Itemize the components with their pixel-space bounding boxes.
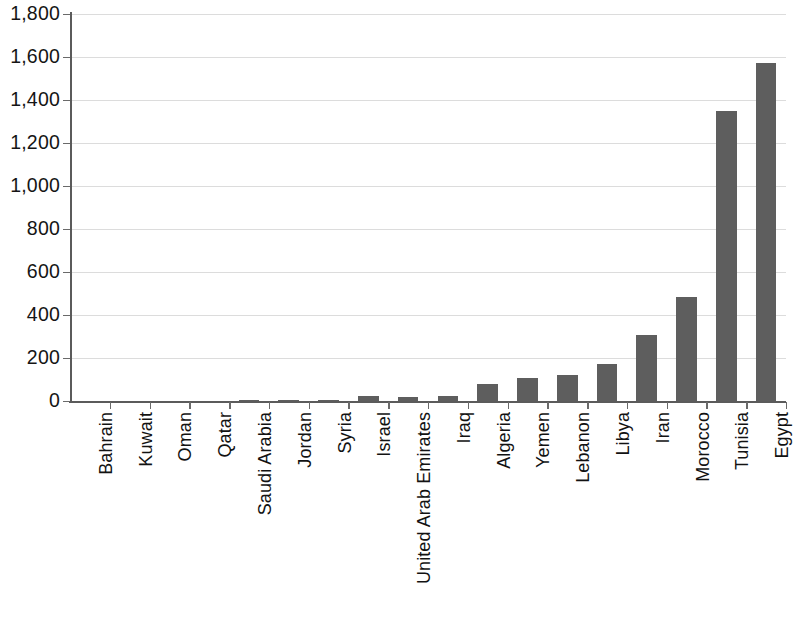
y-tick-mark	[63, 229, 70, 230]
x-tick-mark	[746, 402, 747, 409]
bar[interactable]	[597, 364, 618, 401]
bar[interactable]	[676, 297, 697, 401]
bars-layer	[70, 14, 786, 401]
x-tick-label: Iran	[654, 412, 672, 443]
y-tick-label: 200	[0, 348, 60, 368]
x-tick-label: Tunisia	[733, 412, 751, 470]
x-tick-label: United Arab Emirates	[415, 412, 433, 584]
y-axis-tick-labels: 02004006008001,0001,2001,4001,6001,800	[0, 0, 60, 621]
bar[interactable]	[477, 384, 498, 401]
y-tick-mark	[63, 14, 70, 15]
bar[interactable]	[756, 63, 777, 401]
y-tick-label: 1,400	[0, 90, 60, 110]
y-tick-mark	[63, 358, 70, 359]
x-tick-mark	[547, 402, 548, 409]
x-tick-label: Algeria	[495, 412, 513, 469]
x-tick-mark	[428, 402, 429, 409]
x-tick-mark	[348, 402, 349, 409]
y-tick-mark	[63, 272, 70, 273]
bar[interactable]	[557, 375, 578, 401]
x-tick-mark	[706, 402, 707, 409]
x-tick-mark	[627, 402, 628, 409]
x-tick-label: Iraq	[455, 412, 473, 443]
x-tick-label: Libya	[614, 412, 632, 456]
x-tick-label: Jordan	[296, 412, 314, 468]
bar[interactable]	[517, 378, 538, 401]
y-tick-label: 600	[0, 262, 60, 282]
x-tick-label: Yemen	[534, 412, 552, 468]
x-tick-label: Oman	[176, 412, 194, 461]
x-tick-mark	[309, 402, 310, 409]
y-tick-label: 1,000	[0, 176, 60, 196]
x-tick-mark	[189, 402, 190, 409]
y-tick-label: 1,600	[0, 47, 60, 67]
x-tick-mark	[269, 402, 270, 409]
x-tick-mark	[229, 402, 230, 409]
x-tick-label: Morocco	[694, 412, 712, 482]
y-tick-label: 1,200	[0, 133, 60, 153]
x-tick-mark	[786, 402, 787, 409]
x-tick-mark	[587, 402, 588, 409]
x-tick-label: Qatar	[216, 412, 234, 458]
y-tick-mark	[63, 315, 70, 316]
y-tick-label: 0	[0, 391, 60, 411]
y-axis-line	[70, 12, 72, 403]
y-tick-mark	[63, 57, 70, 58]
y-tick-mark	[63, 143, 70, 144]
x-tick-label: Syria	[336, 412, 354, 454]
bar[interactable]	[636, 335, 657, 401]
x-tick-mark	[508, 402, 509, 409]
x-tick-mark	[667, 402, 668, 409]
x-tick-label: Lebanon	[574, 412, 592, 483]
x-tick-mark	[468, 402, 469, 409]
x-tick-mark	[388, 402, 389, 409]
bar[interactable]	[716, 111, 737, 401]
x-tick-label: Saudi Arabia	[256, 412, 274, 515]
x-tick-label: Kuwait	[137, 412, 155, 467]
bar-chart: 02004006008001,0001,2001,4001,6001,800 B…	[0, 0, 793, 621]
x-tick-label: Egypt	[773, 412, 791, 459]
y-tick-mark	[63, 186, 70, 187]
y-tick-mark	[63, 401, 70, 402]
y-tick-label: 800	[0, 219, 60, 239]
y-tick-label: 400	[0, 305, 60, 325]
x-tick-label: Bahrain	[97, 412, 115, 475]
x-tick-mark	[150, 402, 151, 409]
x-tick-label: Israel	[375, 412, 393, 457]
x-tick-mark	[110, 402, 111, 409]
y-tick-mark	[63, 100, 70, 101]
y-tick-label: 1,800	[0, 4, 60, 24]
